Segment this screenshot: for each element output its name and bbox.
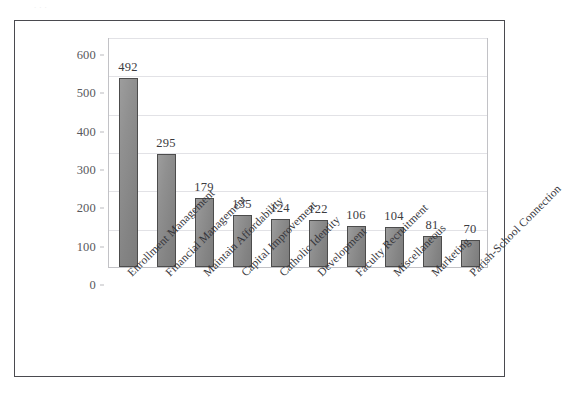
bar-value-label: 295	[156, 136, 175, 151]
y-tick-label: 0	[90, 278, 96, 293]
y-tick-label: 200	[77, 201, 96, 216]
y-tick-mark	[100, 208, 104, 209]
bar[interactable]	[119, 78, 138, 267]
y-tick-label: 100	[77, 239, 96, 254]
bar-value-label: 70	[464, 222, 477, 237]
bar-value-label: 106	[346, 208, 365, 223]
x-axis-category-labels: Enrollment ManagementFinancial Managemen…	[108, 270, 488, 370]
y-tick-label: 500	[77, 86, 96, 101]
y-tick-mark	[100, 131, 104, 132]
y-tick-mark	[100, 55, 104, 56]
y-tick-mark	[100, 285, 104, 286]
bar-column[interactable]: 70	[451, 37, 489, 267]
y-tick-label: 400	[77, 124, 96, 139]
bar-value-label: 492	[118, 60, 137, 75]
y-tick-mark	[100, 170, 104, 171]
figure-frame: 0100200300400500600 49229517913512412210…	[14, 20, 505, 377]
y-axis: 0100200300400500600	[60, 38, 104, 268]
y-tick-label: 300	[77, 163, 96, 178]
y-tick-label: 600	[77, 48, 96, 63]
bar-column[interactable]: 492	[109, 37, 147, 267]
caption-remnant: . . .	[0, 0, 518, 10]
y-tick-mark	[100, 246, 104, 247]
bar-chart: 0100200300400500600 49229517913512412210…	[15, 21, 504, 376]
y-tick-mark	[100, 93, 104, 94]
